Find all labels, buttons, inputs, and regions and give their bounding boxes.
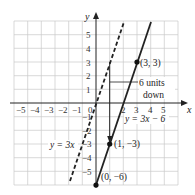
point-3-3 <box>134 59 139 64</box>
svg-text:4: 4 <box>86 44 91 54</box>
svg-text:1: 1 <box>86 85 91 95</box>
svg-text:−4: −4 <box>82 153 92 163</box>
axes <box>10 18 183 188</box>
shift-label-line1: 6 units <box>139 78 165 88</box>
y-axis-arrow-icon <box>93 12 99 19</box>
y-axis-label: y <box>84 11 90 22</box>
svg-text:−2: −2 <box>58 105 68 115</box>
graph: x y −5 −4 −3 −2 −1 0 2 3 4 5 5 4 3 2 1 −… <box>0 0 195 195</box>
svg-text:−5: −5 <box>82 167 92 177</box>
svg-text:−1: −1 <box>82 112 92 122</box>
svg-text:−3: −3 <box>44 105 54 115</box>
svg-text:5: 5 <box>86 30 91 40</box>
equation-solid-label: y = 3x − 6 <box>124 114 166 124</box>
svg-text:2: 2 <box>86 71 91 81</box>
point-label-3-3: (3, 3) <box>140 58 161 69</box>
svg-text:−1: −1 <box>72 105 82 115</box>
line-y-equals-3x <box>70 22 124 181</box>
svg-text:−4: −4 <box>30 105 40 115</box>
point-0-neg6 <box>93 182 98 187</box>
svg-text:−5: −5 <box>16 105 26 115</box>
equation-dashed-label: y = 3x <box>49 140 75 150</box>
svg-text:3: 3 <box>86 58 91 68</box>
point-1-neg3 <box>107 141 112 146</box>
point-label-1-neg3: (1, −3) <box>114 139 140 150</box>
point-label-0-neg6: (0, −6) <box>101 172 127 183</box>
x-axis-label: x <box>186 104 192 115</box>
shift-label-line2: down <box>143 90 164 100</box>
